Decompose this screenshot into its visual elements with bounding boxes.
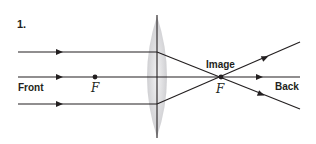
arrow-up-right-icon <box>261 53 270 61</box>
back-label: Back <box>275 81 299 92</box>
ray-bottom-outgoing <box>157 42 300 104</box>
focal-point-right <box>219 75 224 80</box>
focal-label-right: F <box>215 82 225 96</box>
image-label: Image <box>206 59 235 70</box>
focal-label-left: F <box>90 81 100 95</box>
arrow-right-icon <box>256 74 263 80</box>
figure-number: 1. <box>17 18 26 30</box>
arrow-right-icon <box>56 101 63 107</box>
arrow-right-icon <box>56 74 63 80</box>
front-label: Front <box>18 82 44 93</box>
convex-lens-ray-diagram: 1. Front F Image F Back <box>0 0 316 144</box>
arrow-right-icon <box>56 49 63 55</box>
focal-point-left <box>93 75 98 80</box>
